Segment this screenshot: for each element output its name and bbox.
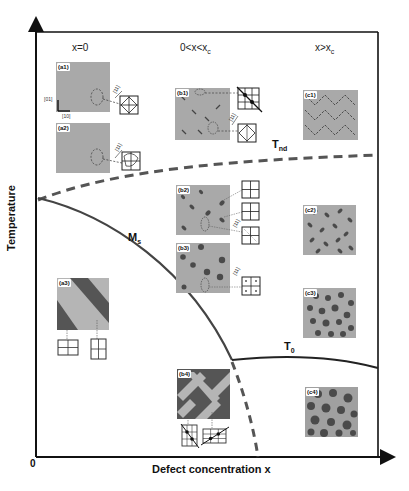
t0-curve [232,357,378,368]
inset-tag-c3: (c3) [304,289,317,297]
inset-tag-c1: (c1) [304,91,317,99]
inset-b4 [177,369,236,448]
direction-label-10: [10] [62,113,70,119]
column-heading-mid-sub: c [207,48,211,55]
inset-tag-b2: (b2) [177,186,190,194]
inset-tag-c2: (c2) [304,206,317,214]
inset-tag-b1: (b1) [176,89,189,97]
curve-label-ms-main: M [128,231,137,243]
boundary-curve [232,362,258,457]
column-heading-mid: 0<x<xc [180,42,211,55]
curve-label-t0-main: T [284,340,291,352]
inset-tag-a3: (a3) [58,279,71,287]
inset-tag-c4: (c4) [306,388,319,396]
inset-tag-b3: (b3) [177,244,190,252]
inset-a3 [57,278,115,359]
curve-label-t0-sub: 0 [291,347,295,354]
x-axis-label: Defect concentration x [152,463,271,475]
column-heading-high-sub: c [331,48,335,55]
direction-label-01: [01] [44,96,52,102]
inset-tag-a1: (a1) [57,63,70,71]
origin-label: 0 [30,458,36,469]
inset-tag-b4: (b4) [178,370,191,378]
column-heading-high: x>xc [315,42,334,55]
curve-label-ms: Ms [128,231,141,245]
inset-tag-a2: (a2) [57,124,70,132]
y-axis-label: Temperature [5,185,17,251]
curve-label-tnd-main: T [272,138,279,150]
column-heading-x0: x=0 [72,42,88,53]
column-heading-high-main: x>x [315,42,331,53]
curve-label-tnd-sub: nd [279,145,288,152]
phase-diagram-canvas [0,0,409,491]
curve-label-tnd: Tnd [272,138,287,152]
curve-label-t0: T0 [284,340,295,354]
curve-label-ms-sub: s [137,238,141,245]
column-heading-mid-main: 0<x<x [180,42,207,53]
